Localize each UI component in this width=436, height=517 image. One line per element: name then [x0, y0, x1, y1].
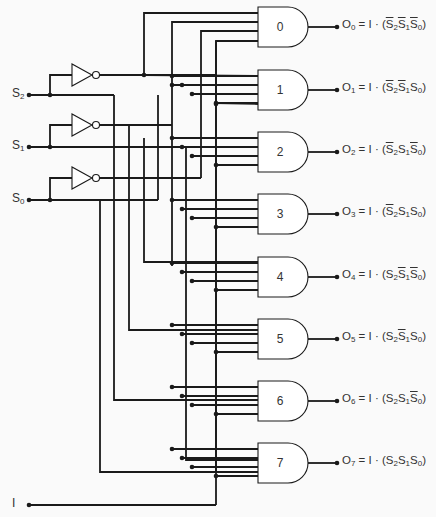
- gate-label-5: 5: [277, 332, 284, 346]
- inverter-bubble-S0: [93, 175, 100, 182]
- output-equation-5: O5 = I · (S2S1S0): [342, 330, 426, 344]
- S0-true-vertical: [100, 200, 258, 472]
- input-label-S2: S2: [12, 86, 24, 101]
- output-terminal-2: [335, 150, 340, 155]
- inverter-feed-S0: [50, 178, 72, 200]
- output-terminal-5: [335, 337, 340, 342]
- junction-dot: [170, 323, 175, 328]
- gate-label-1: 1: [277, 83, 284, 97]
- not-gate-S0: [72, 167, 92, 189]
- junction-dot: [180, 207, 185, 212]
- junction-dot: [170, 74, 175, 79]
- output-equation-7: O7 = I · (S2S1S0): [342, 454, 426, 468]
- junction-dot: [170, 261, 175, 266]
- input-label-S0: S0: [12, 191, 24, 206]
- output-equation-1: O1 = I · (S2S1S0): [342, 81, 426, 95]
- junction-dot: [190, 279, 195, 284]
- inverter-feed-S2: [50, 75, 72, 95]
- junction-dot: [180, 145, 185, 150]
- gate-label-7: 7: [277, 456, 284, 470]
- inverter-bubble-S2: [93, 72, 100, 79]
- output-equation-3: O3 = I · (S2S1S0): [342, 205, 426, 219]
- not-gate-S1: [72, 114, 92, 136]
- junction-dot: [190, 465, 195, 470]
- output-equation-0: O0 = I · (S2S1S0): [342, 18, 426, 32]
- input-label-S1: S1: [12, 138, 24, 153]
- junction-dot: [190, 341, 195, 346]
- output-equation-2: O2 = I · (S2S1S0): [342, 143, 426, 157]
- junction-dot: [180, 83, 185, 88]
- output-terminal-7: [335, 461, 340, 466]
- S1bar-to-g0: [172, 22, 258, 125]
- inverter-bubble-S1: [93, 122, 100, 129]
- junction-dot: [180, 394, 185, 399]
- junction-dot: [170, 198, 175, 203]
- junction-dot: [180, 456, 185, 461]
- junction-dot: [170, 447, 175, 452]
- gate-label-4: 4: [277, 270, 284, 284]
- junction-dot: [180, 270, 185, 275]
- gate-label-3: 3: [277, 207, 284, 221]
- output-terminal-1: [335, 88, 340, 93]
- gate-label-6: 6: [277, 394, 284, 408]
- I-vertical: [216, 41, 258, 505]
- junction-dot: [190, 216, 195, 221]
- not-gate-S2: [72, 64, 92, 86]
- junction-dot: [190, 92, 195, 97]
- junction-dot: [190, 154, 195, 159]
- junction-dot: [180, 332, 185, 337]
- output-terminal-4: [335, 275, 340, 280]
- junction-dot: [170, 385, 175, 390]
- output-equation-6: O6 = I · (S2S1S0): [342, 392, 426, 406]
- junction-dot: [214, 474, 219, 479]
- S1-vertical: [186, 147, 258, 460]
- inverter-feed-S1: [50, 125, 72, 147]
- input-terminal-I: [27, 503, 32, 508]
- decoder-circuit: 01234567: [0, 0, 436, 517]
- output-terminal-3: [335, 212, 340, 217]
- output-equation-4: O4 = I · (S2S1S0): [342, 268, 426, 282]
- output-terminal-6: [335, 399, 340, 404]
- junction-dot: [190, 403, 195, 408]
- output-terminal-0: [335, 25, 340, 30]
- junction-dot: [170, 136, 175, 141]
- gate-label-2: 2: [277, 145, 284, 159]
- gate-label-0: 0: [277, 20, 284, 34]
- input-label-I: I: [12, 496, 15, 510]
